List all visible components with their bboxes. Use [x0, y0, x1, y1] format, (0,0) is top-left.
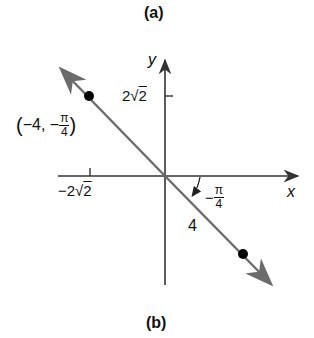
- caption-b: (b): [146, 315, 166, 331]
- polar-line-upper: [62, 70, 165, 176]
- point-label: (−4, −π4): [16, 112, 76, 138]
- x-axis-label: x: [287, 184, 295, 200]
- point-upper: [84, 91, 94, 101]
- y-axis-label: y: [148, 52, 156, 68]
- angle-arc: [193, 177, 200, 195]
- radius-label: 4: [188, 218, 197, 234]
- caption-a: (a): [144, 5, 164, 21]
- diagram-canvas: [0, 0, 314, 338]
- x-tick-label: −2√2: [58, 183, 92, 198]
- angle-label: −π4: [205, 184, 224, 210]
- y-tick-label: 2√2: [122, 88, 147, 103]
- point-lower: [238, 249, 248, 259]
